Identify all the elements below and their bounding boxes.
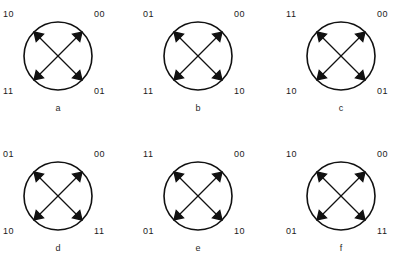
diagram-b-node-bottom-left: 11: [143, 87, 154, 96]
diagram-e-node-top-left: 11: [143, 150, 154, 159]
diagram-c-node-top-left: 11: [286, 10, 297, 19]
diagram-c-node-bottom-left: 10: [286, 87, 297, 96]
diagram-f-node-bottom-left: 01: [286, 227, 297, 236]
diagram-f: 10 00 01 11 f: [285, 148, 400, 259]
diagram-c-node-top-right: 00: [377, 10, 388, 19]
diagram-a: 10 00 11 01 a: [2, 8, 132, 128]
diagram-b-circle: [163, 21, 233, 91]
diagram-d-node-bottom-left: 10: [3, 227, 14, 236]
diagram-d-node-top-left: 01: [3, 150, 14, 159]
diagram-d-circle: [23, 161, 93, 231]
diagram-b-node-bottom-right: 10: [234, 87, 245, 96]
diagram-b: 01 00 11 10 b: [142, 8, 272, 128]
diagram-a-caption: a: [2, 104, 114, 113]
diagram-a-circle: [23, 21, 93, 91]
diagram-d-node-bottom-right: 11: [94, 227, 105, 236]
diagram-c-circle: [306, 21, 376, 91]
diagram-f-node-top-left: 10: [286, 150, 297, 159]
diagram-a-node-top-left: 10: [3, 10, 14, 19]
diagram-c-node-bottom-right: 01: [377, 87, 388, 96]
diagram-f-node-top-right: 00: [377, 150, 388, 159]
diagram-e-node-bottom-left: 01: [143, 227, 154, 236]
diagram-f-node-bottom-right: 11: [377, 227, 388, 236]
diagram-d-node-top-right: 00: [94, 150, 105, 159]
diagram-e-node-bottom-right: 10: [234, 227, 245, 236]
diagram-a-node-bottom-left: 11: [3, 87, 14, 96]
diagram-f-caption: f: [285, 244, 397, 253]
figure-grid: 10 00 11 01 a 01 00 11: [0, 0, 400, 259]
diagram-b-node-top-left: 01: [143, 10, 154, 19]
diagram-e-caption: e: [142, 244, 254, 253]
diagram-e: 11 00 01 10 e: [142, 148, 272, 259]
diagram-e-circle: [163, 161, 233, 231]
diagram-b-caption: b: [142, 104, 254, 113]
diagram-a-node-bottom-right: 01: [94, 87, 105, 96]
diagram-a-node-top-right: 00: [94, 10, 105, 19]
diagram-c-caption: c: [285, 104, 397, 113]
diagram-d: 01 00 10 11 d: [2, 148, 132, 259]
diagram-d-caption: d: [2, 244, 114, 253]
diagram-c: 11 00 10 01 c: [285, 8, 400, 128]
diagram-b-node-top-right: 00: [234, 10, 245, 19]
diagram-e-node-top-right: 00: [234, 150, 245, 159]
diagram-f-circle: [306, 161, 376, 231]
